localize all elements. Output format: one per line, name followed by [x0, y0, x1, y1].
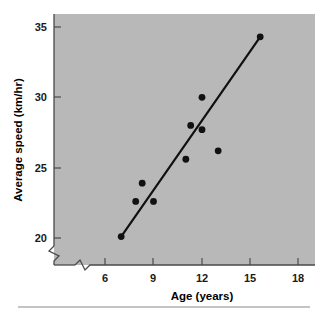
data-point [199, 126, 206, 133]
x-tick-label-6: 6 [102, 272, 108, 284]
chart-canvas: 35 30 25 20 6 9 12 15 18 Age (years) Ave… [0, 0, 330, 317]
y-tick-label-25: 25 [35, 162, 47, 174]
data-point [150, 198, 157, 205]
x-tick-label-9: 9 [150, 272, 156, 284]
data-point [182, 156, 189, 163]
y-axis-title: Average speed (km/hr) [12, 78, 24, 202]
plot-area-background [54, 14, 315, 265]
data-point [199, 94, 206, 101]
x-axis-title: Age (years) [171, 290, 234, 302]
data-point [118, 233, 125, 240]
x-tick-label-12: 12 [196, 272, 208, 284]
data-point [257, 33, 264, 40]
y-tick-label-35: 35 [35, 21, 47, 33]
x-tick-label-15: 15 [244, 272, 256, 284]
y-tick-label-30: 30 [35, 91, 47, 103]
scatter-plot-figure: 35 30 25 20 6 9 12 15 18 Age (years) Ave… [0, 0, 330, 317]
x-tick-label-18: 18 [292, 272, 304, 284]
data-point [215, 147, 222, 154]
data-point [139, 180, 146, 187]
data-point [132, 198, 139, 205]
data-point [187, 122, 194, 129]
y-tick-label-20: 20 [35, 232, 47, 244]
